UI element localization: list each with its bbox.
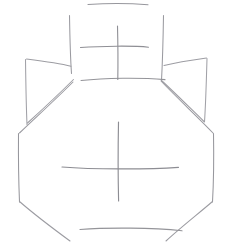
canvas-background <box>0 0 232 242</box>
vase-line-drawing <box>0 0 232 242</box>
sketch-canvas <box>0 0 232 242</box>
